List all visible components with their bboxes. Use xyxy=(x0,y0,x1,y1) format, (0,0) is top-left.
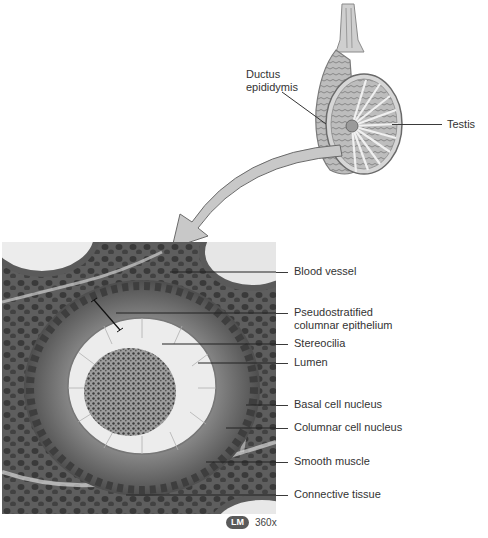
label-blood-vessel: Blood vessel xyxy=(294,265,356,278)
leader-stereocilia xyxy=(276,344,288,345)
magnification-label: 360x xyxy=(255,516,277,529)
lm-badge: LM xyxy=(226,516,249,529)
leader-connective-tissue xyxy=(276,495,288,496)
label-pseudostratified-columnar-epithelium: Pseudostratified columnar epithelium xyxy=(294,306,392,332)
leader-blood-vessel xyxy=(276,272,288,273)
testis-leader-line xyxy=(392,124,442,125)
testis-label: Testis xyxy=(447,118,475,131)
curved-arrow-icon xyxy=(150,140,350,250)
leader-smooth-muscle xyxy=(276,462,288,463)
label-stereocilia: Stereocilia xyxy=(294,337,345,350)
light-micrograph xyxy=(2,242,276,514)
label-basal-cell-nucleus: Basal cell nucleus xyxy=(294,398,382,411)
label-lumen: Lumen xyxy=(294,356,328,369)
label-connective-tissue: Connective tissue xyxy=(294,488,381,501)
leader-lumen xyxy=(276,363,288,364)
leader-basal-cell-nucleus xyxy=(276,405,288,406)
leader-pseudostratified xyxy=(276,313,288,314)
ductus-leader-line xyxy=(280,90,330,130)
label-smooth-muscle: Smooth muscle xyxy=(294,455,370,468)
leader-columnar-cell-nucleus xyxy=(276,428,288,429)
label-columnar-cell-nucleus: Columnar cell nucleus xyxy=(294,421,402,434)
